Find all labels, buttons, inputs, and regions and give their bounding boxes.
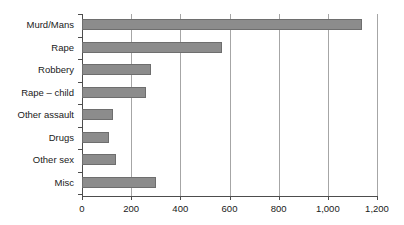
bar-drugs: [82, 132, 109, 143]
x-axis-label-0: 0: [79, 203, 84, 215]
y-axis-label-5: Drugs: [0, 132, 74, 143]
x-axis-tick-600: [230, 196, 231, 200]
y-axis-label-3: Rape – child: [0, 87, 74, 98]
x-axis-tick-400: [180, 196, 181, 200]
x-axis-label-1200: 1,200: [365, 203, 389, 215]
bar-other-assault: [82, 109, 113, 120]
x-axis-tick-200: [131, 196, 132, 200]
bar-rape: [82, 42, 222, 53]
bar-other-sex: [82, 154, 116, 165]
bar-robbery: [82, 64, 151, 75]
y-axis-label-4: Other assault: [0, 109, 74, 120]
x-axis-label-600: 600: [222, 203, 238, 215]
x-axis-label-400: 400: [172, 203, 188, 215]
bar-series: [82, 14, 377, 196]
bar-misc: [82, 177, 156, 188]
bar-chart: Murd/Mans Rape Robbery Rape – child Othe…: [0, 0, 404, 225]
y-axis-label-6: Other sex: [0, 154, 74, 165]
x-axis-label-800: 800: [271, 203, 287, 215]
x-axis-label-1000: 1,000: [316, 203, 340, 215]
x-axis-tick-1200: [377, 196, 378, 200]
y-axis-label-2: Robbery: [0, 64, 74, 75]
y-axis-category-labels: Murd/Mans Rape Robbery Rape – child Othe…: [0, 0, 78, 225]
bar-rape-child: [82, 87, 146, 98]
x-axis-label-200: 200: [123, 203, 139, 215]
plot-area: [82, 14, 377, 196]
bar-murd-mans: [82, 19, 362, 30]
y-axis-label-1: Rape: [0, 42, 74, 53]
x-axis-tick-1000: [328, 196, 329, 200]
y-axis-label-7: Misc: [0, 177, 74, 188]
gridline-1200: [377, 14, 378, 196]
x-axis-tick-0: [82, 196, 83, 200]
x-axis-tick-800: [279, 196, 280, 200]
y-axis-label-0: Murd/Mans: [0, 19, 74, 30]
